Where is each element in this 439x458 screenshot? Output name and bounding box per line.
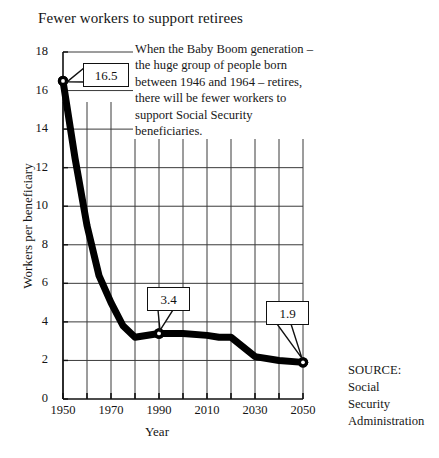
x-tick-label: 1950 xyxy=(42,403,84,418)
x-tick-marks xyxy=(63,393,303,399)
data-label-callout-3-4: 3.4 xyxy=(147,287,190,311)
y-tick-label: 18 xyxy=(26,44,48,59)
source-credit: SOURCE: Social Security Administration xyxy=(348,362,436,430)
annotation-textblock: When the Baby Boom generation – the huge… xyxy=(133,41,317,139)
y-tick-label: 2 xyxy=(26,352,48,367)
x-tick-label: 2030 xyxy=(234,403,276,418)
chart-container: Fewer workers to support retirees 024681… xyxy=(0,0,439,458)
source-line-1: Social xyxy=(348,379,436,396)
annotation-line-3: between 1946 and 1964 – retires, xyxy=(135,75,302,89)
x-tick-label: 2010 xyxy=(186,403,228,418)
annotation-line-1: When the Baby Boom generation xyxy=(135,42,304,56)
y-tick-label: 4 xyxy=(26,314,48,329)
data-label-callout-1-9: 1.9 xyxy=(266,301,309,325)
x-tick-label: 1970 xyxy=(90,403,132,418)
annotation-line-5: support Social Security xyxy=(135,108,253,122)
annotation-line-4: there will be fewer workers to xyxy=(135,91,286,105)
x-tick-label: 2050 xyxy=(282,403,324,418)
y-axis-title: Workers per beneficiary xyxy=(20,136,36,316)
y-tick-label: 16 xyxy=(26,83,48,98)
source-line-3: Administration xyxy=(348,413,436,430)
source-label: SOURCE: xyxy=(348,362,436,379)
annotation-line-6: beneficiaries. xyxy=(135,124,202,138)
data-label-callout-16-5: 16.5 xyxy=(83,63,129,87)
y-tick-label: 14 xyxy=(26,121,48,136)
source-line-2: Security xyxy=(348,396,436,413)
x-axis-title: Year xyxy=(145,424,169,440)
x-tick-label: 1990 xyxy=(138,403,180,418)
